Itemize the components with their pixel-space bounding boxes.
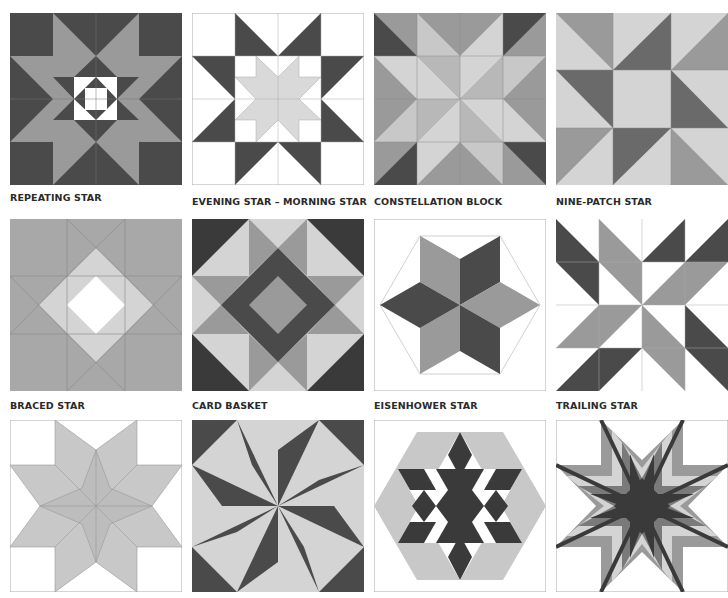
quilt-block-card-basket <box>192 219 364 391</box>
evening-star-pattern <box>192 13 364 185</box>
lemoyne-star-pattern <box>10 420 182 592</box>
quilt-block-trailing-star <box>556 219 728 391</box>
block-label: EISENHOWER STAR <box>374 400 478 411</box>
quilt-block-pinwheel-star <box>192 420 364 592</box>
block-label: CONSTELLATION BLOCK <box>374 196 502 207</box>
quilt-block-constellation <box>374 13 546 185</box>
block-label: CARD BASKET <box>192 400 268 411</box>
broken-star-pattern <box>556 420 728 592</box>
hexagon-star-pattern <box>374 420 546 592</box>
quilt-block-repeating-star <box>10 13 182 185</box>
repeating-star-pattern <box>10 13 182 185</box>
quilt-block-broken-star <box>556 420 728 592</box>
quilt-block-evening-star <box>192 13 364 185</box>
quilt-block-nine-patch-star <box>556 13 728 185</box>
quilt-block-lemoyne-star <box>10 420 182 592</box>
nine-patch-star-pattern <box>556 13 728 185</box>
quilt-block-braced-star <box>10 219 182 391</box>
block-label: EVENING STAR – MORNING STAR <box>192 196 367 207</box>
braced-star-pattern <box>10 219 182 391</box>
block-label: BRACED STAR <box>10 400 85 411</box>
pinwheel-star-pattern <box>192 420 364 592</box>
constellation-pattern <box>374 13 546 185</box>
trailing-star-pattern <box>556 219 728 391</box>
quilt-block-hexagon-star <box>374 420 546 592</box>
quilt-block-eisenhower-star <box>374 219 546 391</box>
block-label: REPEATING STAR <box>10 192 102 203</box>
card-basket-pattern <box>192 219 364 391</box>
eisenhower-star-pattern <box>374 219 546 391</box>
block-label: NINE-PATCH STAR <box>556 196 652 207</box>
block-label: TRAILING STAR <box>556 400 638 411</box>
